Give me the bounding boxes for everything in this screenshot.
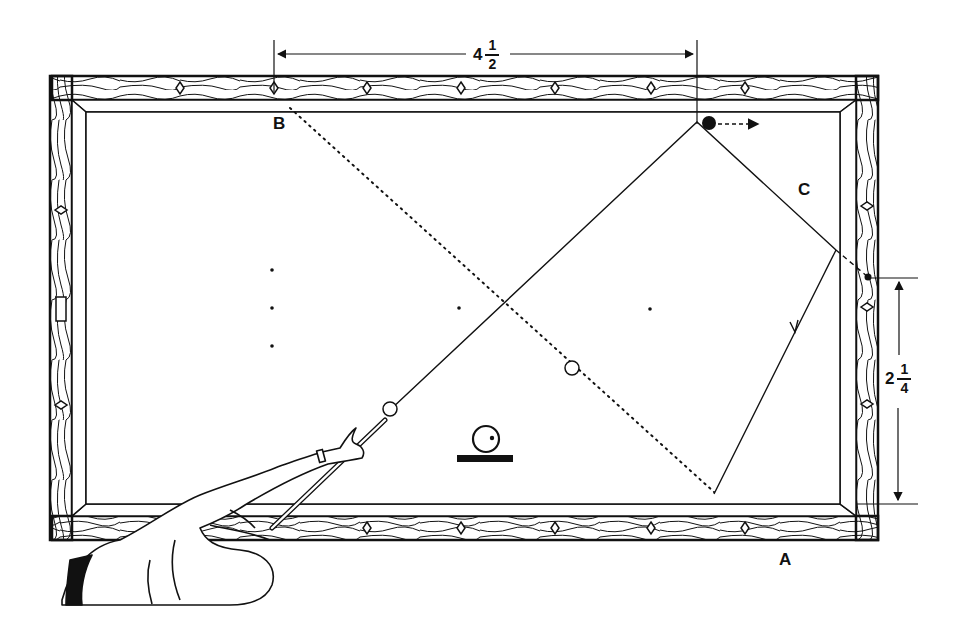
diagram-canvas: [0, 0, 959, 633]
dimension-right-label: 2 1 4: [885, 362, 911, 396]
rail-contact-point: [865, 274, 872, 281]
side-pocket-marker: [56, 297, 66, 321]
object-ball: [702, 116, 716, 130]
dimension-top-label: 4 1 2: [473, 38, 499, 72]
label-point-b: B: [273, 114, 285, 134]
dimension-top-fraction: 1 2: [485, 38, 499, 72]
cue-ball: [383, 402, 397, 416]
label-point-a: A: [779, 550, 791, 570]
dimension-top-numerator: 1: [489, 38, 497, 53]
dimension-right-whole: 2: [885, 369, 894, 389]
table-frame: [50, 76, 878, 540]
billiards-diagram: B C A 4 1 2 2 1 4: [0, 0, 959, 633]
dimension-top-whole: 4: [473, 45, 482, 65]
dimension-right-fraction: 1 4: [897, 362, 911, 396]
left-cushion: [72, 100, 86, 516]
dimension-right-denominator: 4: [901, 381, 909, 396]
playing-surface: [86, 112, 840, 504]
label-point-c: C: [798, 180, 810, 200]
right-cushion: [840, 100, 856, 516]
ghost-ball: [565, 361, 579, 375]
top-cushion: [72, 100, 856, 112]
dimension-right-numerator: 1: [901, 362, 909, 377]
dimension-top-denominator: 2: [489, 57, 497, 72]
